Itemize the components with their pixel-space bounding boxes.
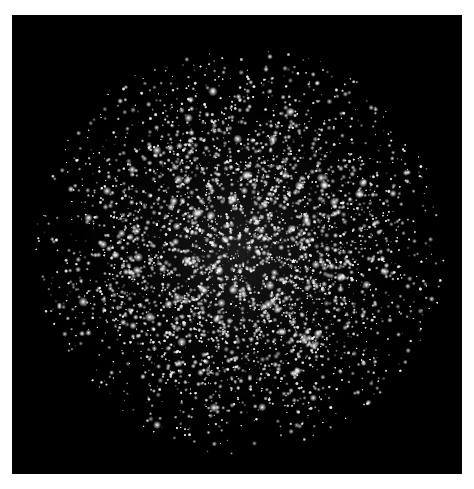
star-field	[12, 15, 462, 474]
star-cluster-image	[12, 15, 462, 474]
